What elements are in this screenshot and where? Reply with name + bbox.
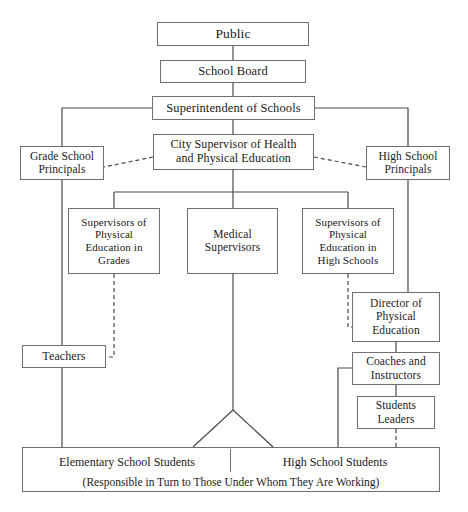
node-label-high-school-principals: High School Principals [376, 150, 441, 176]
edge-medical-split-right [233, 410, 273, 447]
node-label-grade-school-principals: Grade School Principals [27, 150, 97, 176]
org-chart: PublicSchool BoardSuperintendent of Scho… [0, 0, 468, 512]
node-label-superintendent: Superintendent of Schools [163, 101, 303, 115]
node-label-supervisors-pe-high-schools: Supervisors of Physical Education in Hig… [312, 216, 383, 266]
bottom-caption: (Responsible in Turn to Those Under Whom… [23, 472, 439, 492]
edge-supervisors-grades-to-teachers [106, 274, 114, 357]
node-students-leaders[interactable]: Students Leaders [357, 396, 435, 429]
node-coaches-instructors[interactable]: Coaches and Instructors [352, 352, 440, 385]
node-label-school-board: School Board [195, 64, 271, 78]
node-label-public: Public [212, 26, 253, 41]
bottom-label-high-school: High School Students [231, 451, 439, 473]
edge-superintendent-to-right-rail [315, 108, 408, 146]
node-school-board[interactable]: School Board [160, 60, 306, 83]
node-supervisors-pe-grades[interactable]: Supervisors of Physical Education in Gra… [68, 208, 160, 274]
node-public[interactable]: Public [157, 22, 309, 46]
edge-superintendent-to-left-rail [62, 108, 152, 146]
edge-city-supervisor-to-grade-principals [104, 157, 153, 167]
bottom-label-elementary: Elementary School Students [23, 451, 231, 473]
node-supervisors-pe-high-schools[interactable]: Supervisors of Physical Education in Hig… [302, 208, 394, 274]
node-label-medical-supervisors: Medical Supervisors [202, 228, 263, 254]
node-medical-supervisors[interactable]: Medical Supervisors [187, 208, 278, 274]
node-grade-school-principals[interactable]: Grade School Principals [20, 146, 104, 180]
node-teachers[interactable]: Teachers [22, 345, 106, 368]
edge-city-supervisor-to-high-principals [314, 157, 366, 167]
node-superintendent[interactable]: Superintendent of Schools [152, 96, 315, 120]
bottom-divider [230, 449, 231, 472]
edge-coaches-branch-to-bottom [338, 368, 352, 447]
node-students-bottom[interactable]: Elementary School StudentsHigh School St… [22, 447, 440, 492]
node-label-coaches-instructors: Coaches and Instructors [363, 355, 429, 381]
node-label-director-pe: Director of Physical Education [367, 297, 425, 336]
node-director-pe[interactable]: Director of Physical Education [352, 292, 440, 342]
node-label-students-leaders: Students Leaders [373, 399, 419, 425]
node-label-teachers: Teachers [39, 350, 88, 364]
node-high-school-principals[interactable]: High School Principals [366, 146, 450, 180]
node-label-city-supervisor: City Supervisor of Health and Physical E… [167, 138, 299, 165]
node-city-supervisor[interactable]: City Supervisor of Health and Physical E… [153, 134, 314, 170]
node-label-supervisors-pe-grades: Supervisors of Physical Education in Gra… [78, 216, 149, 266]
edge-medical-split-left [193, 410, 233, 447]
bottom-student-groups: Elementary School StudentsHigh School St… [23, 451, 439, 473]
